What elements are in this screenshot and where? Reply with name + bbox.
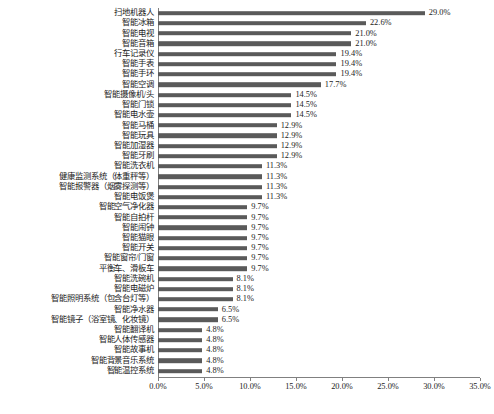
bar bbox=[158, 256, 247, 260]
bar-value-label: 21.0% bbox=[355, 39, 377, 49]
bar-row: 智能故事机4.8% bbox=[158, 345, 480, 355]
bar-row: 智能音箱21.0% bbox=[158, 39, 480, 49]
bar-row: 智能牙刷12.9% bbox=[158, 151, 480, 161]
category-label: 智能温控系统 bbox=[107, 366, 154, 376]
category-label: 智能闹钟 bbox=[122, 223, 154, 233]
category-label: 智能电水壶 bbox=[114, 111, 154, 121]
bar-and-value: 9.7% bbox=[158, 223, 269, 233]
bar bbox=[158, 246, 247, 250]
category-label: 智能空气净化器 bbox=[99, 203, 154, 213]
bar-and-value: 9.7% bbox=[158, 264, 269, 274]
category-label: 智能马桶 bbox=[122, 121, 154, 131]
bar-and-value: 14.5% bbox=[158, 111, 317, 121]
bar-and-value: 21.0% bbox=[158, 29, 377, 39]
bar-row: 健康监测系统（体重秤等）11.3% bbox=[158, 172, 480, 182]
bar-and-value: 9.7% bbox=[158, 203, 269, 213]
bar-value-label: 21.0% bbox=[355, 29, 377, 39]
bar-value-label: 4.8% bbox=[206, 356, 223, 366]
bar-row: 智能空气净化器9.7% bbox=[158, 202, 480, 212]
bar-and-value: 9.7% bbox=[158, 243, 269, 253]
category-label: 智能电视 bbox=[122, 29, 154, 39]
bar-row: 智能手表19.4% bbox=[158, 59, 480, 69]
bar-value-label: 22.6% bbox=[370, 19, 392, 29]
bar-value-label: 12.9% bbox=[281, 121, 303, 131]
bar-row: 智能背景音乐系统4.8% bbox=[158, 356, 480, 366]
x-axis-tick-label: 15.0% bbox=[285, 381, 307, 392]
bar-value-label: 11.3% bbox=[266, 162, 287, 172]
bar bbox=[158, 267, 247, 271]
bar-value-label: 4.8% bbox=[206, 346, 223, 356]
bar bbox=[158, 42, 351, 46]
x-axis-tick-label: 10.0% bbox=[239, 381, 261, 392]
bar bbox=[158, 31, 351, 35]
category-label: 智能窗帘/门窗 bbox=[104, 254, 154, 264]
bar-row: 智能电饭煲11.3% bbox=[158, 192, 480, 202]
bar-row: 智能报警器（烟雾探测等）11.3% bbox=[158, 182, 480, 192]
bar-row: 智能电视21.0% bbox=[158, 28, 480, 38]
bar bbox=[158, 175, 262, 179]
bar-and-value: 14.5% bbox=[158, 100, 317, 110]
category-label: 智能玩具 bbox=[122, 131, 154, 141]
category-label: 健康监测系统（体重秤等） bbox=[59, 172, 154, 182]
bar-row: 智能手环19.4% bbox=[158, 69, 480, 79]
bar-value-label: 19.4% bbox=[340, 49, 362, 59]
category-label: 智能手环 bbox=[122, 70, 154, 80]
bar-row: 智能洗衣机11.3% bbox=[158, 161, 480, 171]
bar-value-label: 4.8% bbox=[206, 335, 223, 345]
bar-and-value: 12.9% bbox=[158, 151, 302, 161]
category-label: 智能冰箱 bbox=[122, 19, 154, 29]
bar-row: 智能加湿器12.9% bbox=[158, 141, 480, 151]
bar bbox=[158, 62, 336, 66]
bar-row: 智能开关9.7% bbox=[158, 243, 480, 253]
bar-row: 智能马桶12.9% bbox=[158, 120, 480, 130]
bar bbox=[158, 318, 218, 322]
category-label: 智能手表 bbox=[122, 59, 154, 69]
bar bbox=[158, 297, 233, 301]
x-axis-tick-label: 30.0% bbox=[423, 381, 445, 392]
bar bbox=[158, 328, 202, 332]
bar-row: 扫地机器人29.0% bbox=[158, 8, 480, 18]
bar bbox=[158, 348, 202, 352]
bar-and-value: 12.9% bbox=[158, 131, 302, 141]
bar-value-label: 9.7% bbox=[251, 264, 268, 274]
bar-row: 智能冰箱22.6% bbox=[158, 18, 480, 28]
bar-value-label: 9.7% bbox=[251, 254, 268, 264]
bar bbox=[158, 113, 291, 117]
bar bbox=[158, 185, 262, 189]
bar-row: 智能电磁炉8.1% bbox=[158, 284, 480, 294]
bar-row: 智能玩具12.9% bbox=[158, 131, 480, 141]
category-label: 智能加湿器 bbox=[114, 141, 154, 151]
bar-and-value: 9.7% bbox=[158, 233, 269, 243]
plot-area: 扫地机器人29.0%智能冰箱22.6%智能电视21.0%智能音箱21.0%行车记… bbox=[158, 8, 480, 376]
category-label: 智能摄像机/头 bbox=[104, 90, 154, 100]
bar-row: 智能镜子（浴室镜、化妆镜）6.5% bbox=[158, 315, 480, 325]
x-axis-tick-label: 5.0% bbox=[195, 381, 212, 392]
bar-value-label: 9.7% bbox=[251, 233, 268, 243]
bar-and-value: 4.8% bbox=[158, 366, 224, 376]
bar-row: 智能猫眼9.7% bbox=[158, 233, 480, 243]
bar bbox=[158, 52, 336, 56]
bar-row: 智能窗帘/门窗9.7% bbox=[158, 253, 480, 263]
bar bbox=[158, 195, 262, 199]
bar bbox=[158, 236, 247, 240]
bar bbox=[158, 123, 277, 127]
bar-value-label: 14.5% bbox=[295, 111, 317, 121]
bar-row: 行车记录仪19.4% bbox=[158, 49, 480, 59]
bar-value-label: 12.9% bbox=[281, 151, 303, 161]
category-label: 智能牙刷 bbox=[122, 151, 154, 161]
category-label: 智能故事机 bbox=[114, 346, 154, 356]
bar bbox=[158, 144, 277, 148]
bar-value-label: 8.1% bbox=[237, 295, 254, 305]
bar-and-value: 17.7% bbox=[158, 80, 346, 90]
bar-and-value: 11.3% bbox=[158, 182, 287, 192]
x-axis-tick-label: 25.0% bbox=[377, 381, 399, 392]
bar-value-label: 11.3% bbox=[266, 182, 287, 192]
category-label: 智能门锁 bbox=[122, 100, 154, 110]
category-label: 智能报警器（烟雾探测等） bbox=[59, 182, 154, 192]
bar-value-label: 12.9% bbox=[281, 141, 303, 151]
bar-and-value: 29.0% bbox=[158, 8, 450, 18]
bar bbox=[158, 226, 247, 230]
bar bbox=[158, 369, 202, 373]
bar-and-value: 22.6% bbox=[158, 19, 392, 29]
category-label: 智能翻译机 bbox=[114, 325, 154, 335]
